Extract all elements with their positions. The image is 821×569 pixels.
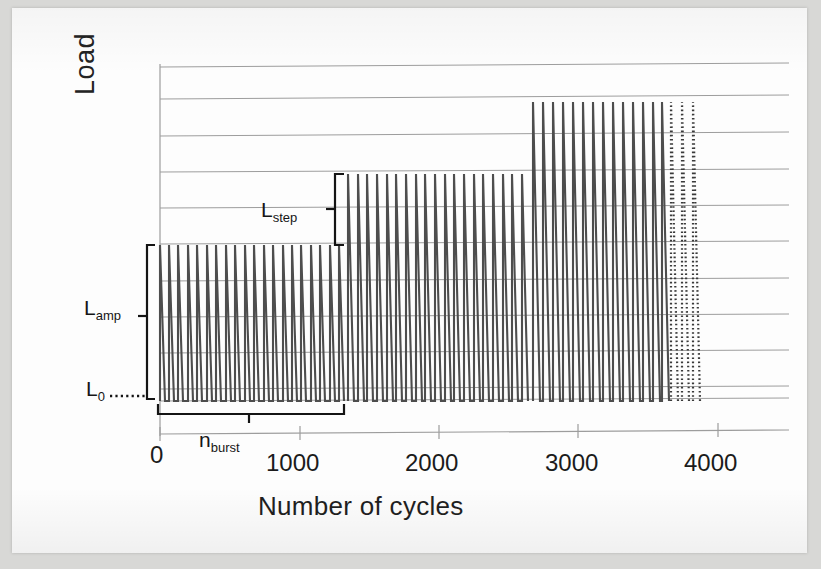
n-burst-subscript: burst [211,440,240,455]
x-tick-label-1000: 1000 [266,449,319,477]
l-step-base: L [261,198,273,221]
x-tick-label-4000: 4000 [684,449,737,477]
dotted-cycle [693,102,700,401]
annotation-l-zero: L0 [86,377,105,404]
l-zero-base: L [86,377,98,400]
burst-2-waveform [348,174,528,401]
l-step-bracket-path [335,174,344,245]
x-tick-label-0: 0 [150,441,163,469]
x-tick-label-3000: 3000 [545,449,598,477]
burst-1-waveform [160,245,344,401]
l-step-subscript: step [273,210,298,225]
l-zero-subscript: 0 [98,389,105,404]
dotted-continuation-waveform [671,102,700,401]
l-amp-base: L [84,296,96,319]
annotation-l-amp: Lamp [84,296,121,323]
dotted-cycle [671,102,678,401]
burst-3-waveform [533,102,669,401]
annotation-n-burst: nburst [199,428,240,455]
n-burst-bracket [158,404,344,423]
load-vs-cycles-plot [0,0,821,569]
n-burst-base: n [199,428,211,451]
annotation-l-step: Lstep [261,198,297,225]
l-amp-bracket [138,245,155,399]
gridline [160,63,789,67]
n-burst-bracket-path [158,404,344,414]
figure-page: Load Number of cycles Lamp L0 Lstep nbur… [0,0,821,569]
chart-figure: Load Number of cycles Lamp L0 Lstep nbur… [0,0,821,569]
dotted-cycle [682,102,689,401]
y-axis-label: Load [70,0,101,95]
gridline [160,95,789,99]
x-axis-label: Number of cycles [258,491,464,522]
x-axis-line [160,430,789,434]
l-step-bracket [326,174,344,245]
l-amp-bracket-path [147,245,155,399]
l-amp-subscript: amp [96,308,121,323]
x-axis [160,423,789,441]
x-tick-label-2000: 2000 [405,449,458,477]
